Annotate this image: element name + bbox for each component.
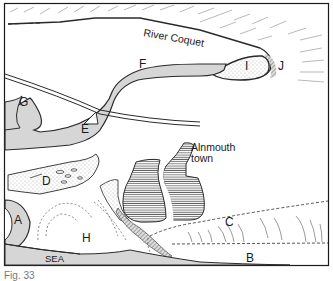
label-g: G <box>19 95 28 109</box>
label-d: D <box>42 174 51 188</box>
label-sea: SEA <box>45 253 65 264</box>
label-h: H <box>82 231 91 245</box>
label-i: I <box>245 59 248 73</box>
label-e: E <box>81 122 89 136</box>
alnmouth-estuary-map: River Coquet F I J G E Alnmouth town D A… <box>0 0 333 281</box>
label-a: A <box>14 213 22 227</box>
label-town-2: town <box>191 152 213 164</box>
figure-caption: Fig. 33 <box>4 270 35 281</box>
label-j: J <box>278 59 284 73</box>
label-c: C <box>225 215 234 229</box>
label-b: B <box>246 251 254 265</box>
label-f: F <box>139 57 146 71</box>
